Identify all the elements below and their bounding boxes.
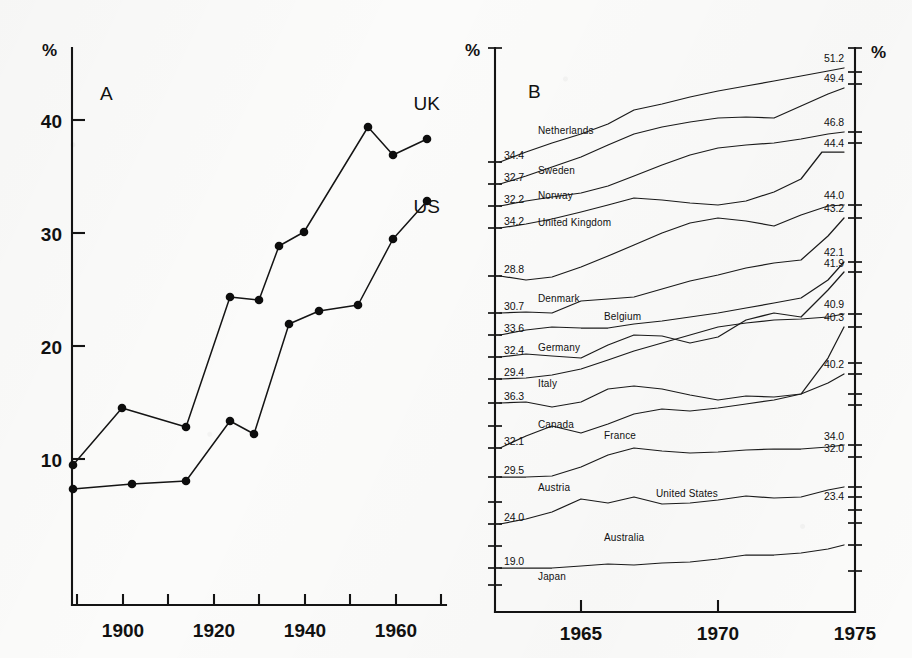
- panel-b-end-australia: 32.0: [824, 442, 844, 454]
- panel-a-percent-symbol: %: [42, 41, 57, 60]
- panel-b-start-france: 36.3: [504, 390, 524, 402]
- panel-a-uk-markers: [69, 123, 432, 470]
- panel-b-line-united-states: [500, 445, 844, 477]
- panel-a-xtick-1960: 1960: [375, 620, 417, 641]
- panel-b-xtick-1970: 1970: [697, 623, 739, 644]
- panel-a-ytick-30: 30: [41, 224, 62, 245]
- panel-b-end-sweden: 49.4: [824, 72, 844, 84]
- panel-b-label-canada: Canada: [538, 419, 574, 430]
- panel-b-end-japan: 23.4: [824, 490, 844, 502]
- panel-b-start-australia: 24.0: [504, 511, 524, 523]
- panel-a-x-ticks: [77, 594, 441, 605]
- panel-a-label-us: US: [414, 196, 440, 217]
- panel-b-start-austria: 32.1: [504, 435, 524, 447]
- panel-b-end-italy: 41.9: [824, 257, 844, 269]
- panel-b-start-belgium: 30.7: [504, 300, 524, 312]
- panel-b-start-values: 34.4 32.7 32.2 34.2 28.8 30.7 33.6 32.4 …: [504, 149, 524, 567]
- panel-a-uk-line: [73, 127, 427, 465]
- panel-b-label-france: France: [604, 430, 636, 441]
- panel-b-line-netherlands: [500, 68, 844, 162]
- panel-b-label-austria: Austria: [538, 482, 570, 493]
- panel-b-start-japan: 19.0: [504, 555, 524, 567]
- panel-b-start-sweden: 32.7: [504, 171, 524, 183]
- panel-b-xtick-1965: 1965: [560, 623, 603, 644]
- panel-b-start-united-kingdom: 34.2: [504, 215, 524, 227]
- panel-a-ytick-40: 40: [41, 111, 62, 132]
- panel-a-label-uk: UK: [414, 93, 441, 114]
- panel-b-start-canada: 29.4: [504, 366, 524, 378]
- panel-a-xtick-1940: 1940: [284, 620, 326, 641]
- panel-b-label-japan: Japan: [538, 571, 566, 582]
- panel-b-x-ticks: [581, 600, 718, 612]
- panel-a-us-line: [73, 201, 427, 489]
- panel-b-end-values: 51.2 49.4 46.8 44.4 44.0 43.2 42.1 41.9 …: [824, 52, 844, 502]
- panel-a-us-markers: [69, 197, 432, 494]
- panel-b-line-japan: [500, 545, 844, 568]
- panel-b-end-belgium: 43.2: [824, 202, 844, 214]
- panel-b-start-germany: 33.6: [504, 322, 524, 334]
- panel-b-label-norway: Norway: [538, 190, 573, 201]
- panel-b-end-france: 40.3: [824, 311, 844, 323]
- panel-b-start-norway: 32.2: [504, 193, 524, 205]
- panel-b-percent-symbol-left: %: [465, 41, 480, 60]
- panel-b-start-netherlands: 34.4: [504, 149, 524, 161]
- panel-a-letter: A: [100, 83, 113, 104]
- panel-a-chart: % A 40 30 20 10 1900 1920 1940 1960 UK U…: [0, 0, 456, 658]
- panel-b-letter: B: [528, 81, 541, 102]
- panel-b-end-austria: 40.2: [824, 358, 844, 370]
- panel-b-xtick-1975: 1975: [834, 623, 877, 644]
- panel-b-start-united-states: 29.5: [504, 464, 524, 476]
- panel-b-label-sweden: Sweden: [538, 165, 575, 176]
- panel-b-end-denmark: 44.0: [824, 189, 844, 201]
- panel-b-start-italy: 32.4: [504, 344, 524, 356]
- panel-a-y-ticks: [72, 120, 85, 459]
- figure-page: % A 40 30 20 10 1900 1920 1940 1960 UK U…: [0, 0, 912, 658]
- panel-b-end-canada: 40.9: [824, 298, 844, 310]
- panel-a-ytick-10: 10: [41, 450, 62, 471]
- panel-a-xtick-1900: 1900: [102, 620, 144, 641]
- panel-b-label-united-kingdom: United Kingdom: [538, 217, 611, 228]
- panel-a-xtick-1920: 1920: [193, 620, 235, 641]
- panel-b-chart: % % B 34.4 32.7 32.2 34.2 28.8 30.7 33.6…: [456, 0, 912, 658]
- panel-b-label-united-states: United States: [656, 488, 718, 499]
- panel-b-label-netherlands: Netherlands: [538, 125, 594, 136]
- panel-a-ytick-20: 20: [41, 337, 62, 358]
- panel-b-percent-symbol-right: %: [871, 43, 886, 62]
- panel-b-label-australia: Australia: [604, 532, 645, 543]
- panel-b-label-italy: Italy: [538, 378, 557, 389]
- panel-b-end-netherlands: 51.2: [824, 52, 844, 64]
- panel-b-end-norway: 46.8: [824, 116, 844, 128]
- panel-b-label-belgium: Belgium: [604, 311, 641, 322]
- panel-b-start-denmark: 28.8: [504, 263, 524, 275]
- panel-b-label-denmark: Denmark: [538, 293, 580, 304]
- panel-b-label-germany: Germany: [538, 342, 580, 353]
- panel-b-end-united-kingdom: 44.4: [824, 137, 844, 149]
- panel-b-end-united-states: 34.0: [824, 430, 844, 442]
